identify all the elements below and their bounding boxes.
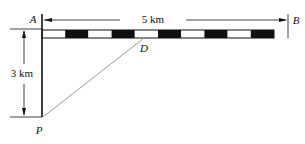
bar-segment: [42, 30, 65, 38]
point-label-p: P: [35, 124, 43, 136]
point-label-a: A: [29, 13, 37, 25]
bar-segment: [88, 30, 111, 38]
bar-segment: [112, 30, 135, 38]
diagram-canvas: 5 km 3 km A B D P: [0, 0, 305, 144]
arrow-left-icon: [44, 18, 52, 22]
striped-road-bar: [42, 30, 274, 38]
bar-segment: [135, 30, 158, 38]
point-label-d: D: [139, 42, 148, 54]
arrow-up-icon: [22, 30, 26, 38]
bar-segment: [158, 30, 181, 38]
bar-segment: [251, 30, 274, 38]
point-label-b: B: [293, 14, 300, 26]
horizontal-distance-label: 5 km: [142, 13, 165, 25]
bar-segment: [204, 30, 227, 38]
vertical-distance-label: 3 km: [11, 67, 34, 79]
bar-segment: [181, 30, 204, 38]
bar-segment: [228, 30, 251, 38]
arrow-down-icon: [22, 108, 26, 116]
arrow-right-icon: [279, 18, 287, 22]
diagonal-line-pd: [43, 38, 144, 117]
vertical-dimension: 3 km: [11, 30, 34, 116]
bar-segment: [65, 30, 88, 38]
